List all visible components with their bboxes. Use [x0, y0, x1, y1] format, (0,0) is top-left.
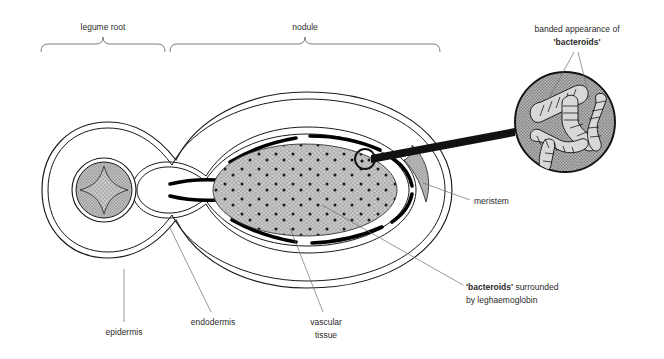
diagram-canvas: legume root nodule [0, 0, 664, 359]
bracket-legume-root: legume root [41, 22, 165, 52]
bacteroids-bold: 'bacteroids' [466, 282, 513, 292]
bracket-nodule: nodule [170, 22, 440, 52]
banded-line1: banded appearance of [534, 24, 620, 34]
label-meristem: meristem [474, 196, 509, 206]
root-vascular-bundle [72, 158, 136, 222]
bracket-label-nodule: nodule [292, 22, 318, 32]
vascular-line1: vascular [310, 317, 342, 327]
bacteroids-line2: by leghaemoglobin [466, 295, 538, 305]
banded-line2: 'bacteroids' [553, 37, 600, 47]
infected-zone [213, 144, 397, 236]
label-epidermis: epidermis [106, 327, 143, 337]
callout-banded-appearance: banded appearance of 'bacteroids' [534, 24, 620, 47]
label-endodermis: endodermis [191, 317, 235, 327]
vascular-line2: tissue [315, 330, 337, 340]
magnified-bacteroids-circle [515, 72, 615, 172]
bracket-label-legume-root: legume root [81, 22, 127, 32]
bacteroids-rest: surrounded [513, 282, 559, 292]
callout-bacteroids-leghaemoglobin: 'bacteroids' surrounded by leghaemoglobi… [466, 282, 559, 305]
label-vascular-tissue: vascular tissue [310, 317, 342, 340]
svg-text:'bacteroids' surrounded: 'bacteroids' surrounded [466, 282, 559, 292]
